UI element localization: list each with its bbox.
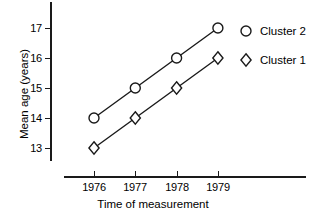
data-point[interactable] [89, 142, 99, 154]
data-point[interactable] [89, 113, 99, 123]
series-cluster-1 [89, 52, 223, 154]
series-layer [89, 23, 223, 154]
series-line-1 [94, 28, 218, 118]
data-point[interactable] [213, 52, 223, 64]
legend-label-cluster-2: Cluster 2 [260, 24, 306, 38]
legend-label-cluster-1: Cluster 1 [260, 53, 306, 67]
data-point[interactable] [130, 112, 140, 124]
circle-marker-icon [238, 24, 254, 38]
series-line-2 [94, 58, 218, 148]
data-point[interactable] [172, 82, 182, 94]
series-cluster-2 [89, 23, 223, 123]
line-chart-figure: 13 14 15 16 17 1976 1977 1978 1979 Mean … [0, 0, 318, 219]
data-point[interactable] [213, 23, 223, 33]
diamond-marker-icon [238, 53, 254, 67]
data-point[interactable] [172, 53, 182, 63]
data-point[interactable] [130, 83, 140, 93]
